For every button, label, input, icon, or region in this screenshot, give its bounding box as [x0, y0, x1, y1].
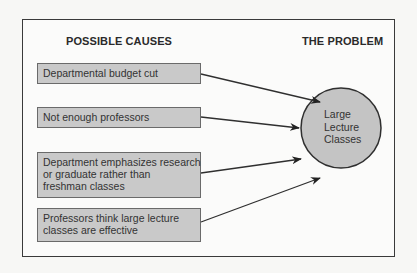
problem-label: Large Lecture Classes [301, 108, 381, 146]
the-problem-heading: THE PROBLEM [302, 35, 383, 47]
cause-text: classes are effective [43, 224, 196, 236]
cause-box-budget-cut: Departmental budget cut [37, 63, 201, 84]
cause-text: freshman classes [43, 180, 196, 192]
cause-box-professors-think-effective: Professors think large lecture classes a… [37, 208, 201, 242]
cause-text: Professors think large lecture [43, 212, 196, 224]
cause-text: Not enough professors [43, 111, 196, 123]
cause-box-not-enough-professors: Not enough professors [37, 107, 201, 128]
possible-causes-heading: POSSIBLE CAUSES [66, 35, 172, 47]
cause-text: Department emphasizes research [43, 156, 196, 168]
cause-text: or graduate rather than [43, 168, 196, 180]
problem-text: Classes [324, 133, 381, 146]
problem-text: Large [324, 108, 381, 121]
cause-box-research-emphasis: Department emphasizes research or gradua… [37, 152, 201, 198]
cause-text: Departmental budget cut [43, 67, 196, 79]
problem-text: Lecture [324, 121, 381, 134]
